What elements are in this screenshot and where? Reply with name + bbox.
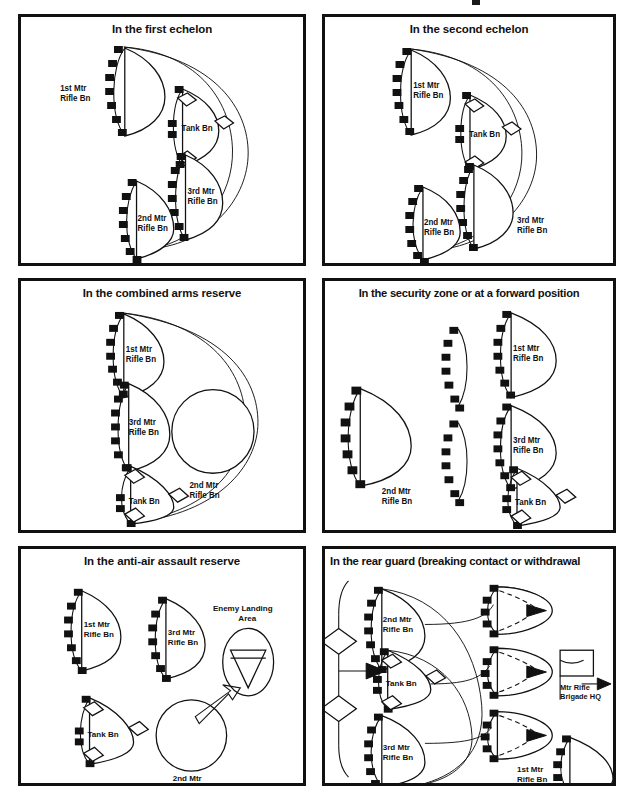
enemy-flot-line (325, 581, 356, 777)
unit-label: Tank Bn (129, 497, 160, 506)
unit-label: Tank Bn (88, 730, 119, 739)
unit-label: 3rd Mtr (168, 628, 196, 637)
diagram-sheet: In the first echelon (0, 0, 628, 790)
unit-symbol-3rd-mtr-rifle-bn[interactable]: 3rd Mtr Rifle Bn (148, 597, 205, 682)
unit-label: Rifle Bn (187, 197, 217, 206)
panel-canvas: 1st Mtr Rifle Bn (21, 299, 303, 530)
panel-rear-guard[interactable]: In the rear guard (breaking contact or w… (322, 546, 616, 786)
unit-symbol-tank-bn[interactable]: Tank Bn (116, 464, 188, 527)
unit-label: 3rd Mtr (129, 418, 157, 427)
unit-label: Rifle Bn (126, 355, 156, 364)
unit-label: 1st Mtr (126, 345, 153, 354)
unit-label: 2nd Mtr (424, 218, 454, 227)
unit-label: 1st Mtr (513, 344, 540, 353)
panel-security-zone[interactable]: In the security zone or at a forward pos… (322, 278, 616, 533)
unit-symbol-1st-mtr-rifle-bn[interactable]: 1st Mtr Rifle Bn (393, 48, 451, 135)
unit-label: Rifle Bn (424, 228, 454, 237)
unit-label: Tank Bn (182, 124, 213, 133)
unit-label: Rifle Bn (383, 753, 413, 762)
unit-label: Rifle Bn (84, 630, 114, 639)
unit-symbol-tank-bn[interactable]: Tank Bn (75, 696, 148, 767)
panel-title: In the security zone or at a forward pos… (325, 286, 613, 300)
panel-second-echelon[interactable]: In the second echelon (322, 14, 616, 266)
unit-label: 2nd Mtr (138, 214, 168, 223)
security-element-arc-upper[interactable] (442, 327, 467, 412)
panel-canvas: 1st Mtr Rifle Bn Tank B (21, 35, 303, 263)
unit-label: 3rd Mtr (513, 436, 541, 445)
panel-anti-air-assault-reserve[interactable]: In the anti-air assault reserve (18, 546, 306, 786)
unit-label: 3rd Mtr (517, 216, 545, 225)
unit-label: Rifle Bn (189, 491, 219, 500)
panel-canvas: 1st Mtr Rifle Bn Tank B (325, 35, 613, 263)
panel-title: In the anti-air assault reserve (21, 554, 303, 568)
unit-symbol-2nd-mtr-rifle-bn[interactable]: 2nd Mtr Rifle Bn (119, 179, 174, 263)
unit-label: 2nd Mtr (173, 774, 203, 783)
unit-label: 1st Mtr (413, 81, 440, 90)
unit-label: 3rd Mtr (383, 743, 411, 752)
unit-label: Rifle Bn (517, 226, 547, 235)
unit-label: Rifle Bn (129, 428, 159, 437)
unit-label: 2nd Mtr (382, 487, 412, 496)
unit-symbol-1st-mtr-rifle-bn[interactable]: 1st Mtr Rifle Bn (106, 312, 164, 398)
panel-grid: In the first echelon (0, 0, 628, 790)
unit-label: Rifle Bn (517, 775, 547, 783)
security-element-arc-lower[interactable] (442, 420, 467, 506)
unit-label: Rifle Bn (138, 224, 168, 233)
unit-label: Rifle Bn (513, 354, 543, 363)
unit-label: 2nd Mtr (383, 615, 413, 624)
unit-label: Rifle Bn (513, 446, 543, 455)
enemy-landing-area-symbol[interactable]: Enemy Landing Area (213, 604, 274, 696)
panel-canvas: 2nd Mtr Rifle Bn Tank B (325, 567, 613, 783)
unit-label: 3rd Mtr (187, 187, 215, 196)
headquarters-symbol[interactable]: Mtr Rifle Brigade HQ (560, 650, 601, 701)
unit-label: 1st Mtr (517, 765, 544, 774)
panel-first-echelon[interactable]: In the first echelon (18, 14, 306, 266)
unit-label: Rifle Bn (382, 497, 412, 506)
panel-canvas: 1st Mtr Rifle Bn (21, 567, 303, 783)
annotation-label: Enemy Landing (213, 604, 273, 613)
panel-canvas: 2nd Mtr Rifle Bn (325, 299, 613, 530)
unit-label: 1st Mtr (84, 620, 111, 629)
panel-title: In the second echelon (325, 22, 613, 36)
unit-label: Tank Bn (469, 130, 500, 139)
unit-symbol-1st-mtr-rifle-bn[interactable]: 1st Mtr Rifle Bn (64, 589, 121, 674)
unit-label: Tank Bn (386, 679, 417, 688)
unit-label: Tank Bn (515, 498, 546, 507)
unit-symbol-2nd-mtr-rifle-bn-reserve[interactable]: 2nd Mtr Rifle Bn (156, 700, 227, 783)
unit-label: 2nd Mtr (189, 481, 219, 490)
panel-title: In the combined arms reserve (21, 286, 303, 300)
unit-symbol-3rd-mtr-rifle-bn[interactable]: 3rd Mtr Rifle Bn (364, 714, 425, 783)
successive-position-upper[interactable] (481, 585, 553, 638)
unit-symbol-2nd-mtr-rifle-bn[interactable]: 2nd Mtr Rifle Bn (341, 387, 412, 507)
annotation-label: Brigade HQ (560, 692, 601, 701)
unit-label: Rifle Bn (60, 94, 90, 103)
panel-title: In the first echelon (21, 22, 303, 36)
unit-symbol-1st-mtr-rifle-bn[interactable]: 1st Mtr Rifle Bn (493, 311, 556, 399)
panel-title: In the rear guard (breaking contact or w… (325, 554, 613, 568)
annotation-label: Area (238, 613, 256, 622)
successive-position-middle[interactable] (481, 646, 553, 699)
unit-label: 1st Mtr (60, 84, 87, 93)
unit-label: Rifle Bn (383, 625, 413, 634)
unit-symbol-2nd-mtr-rifle-bn[interactable]: 2nd Mtr Rifle Bn (405, 185, 460, 263)
unit-symbol-1st-mtr-rifle-bn[interactable]: 1st Mtr Rifle Bn (60, 46, 165, 136)
panel-combined-arms-reserve[interactable]: In the combined arms reserve (18, 278, 306, 533)
unit-symbol-2nd-mtr-rifle-bn-reserve[interactable]: 2nd Mtr Rifle Bn (172, 390, 254, 501)
unit-symbol-tank-bn[interactable]: Tank Bn (455, 92, 521, 173)
unit-label: Rifle Bn (168, 638, 198, 647)
unit-label: Rifle Bn (413, 91, 443, 100)
successive-position-lower[interactable] (481, 710, 553, 763)
